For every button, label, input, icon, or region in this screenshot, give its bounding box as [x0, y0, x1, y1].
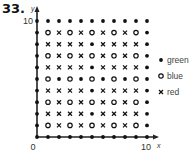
blue-circle-icon [90, 30, 94, 34]
blue-circle-icon [134, 30, 138, 34]
blue-circle-icon [68, 30, 72, 34]
blue-circle-icon [134, 100, 138, 104]
green-dot-icon [90, 135, 94, 139]
green-dot-icon [35, 77, 39, 81]
legend-label-green: green [167, 55, 189, 65]
green-dot-icon [134, 135, 138, 139]
red-cross-icon [79, 100, 83, 104]
green-dot-icon [35, 31, 39, 35]
red-cross-icon [79, 65, 83, 69]
green-dot-icon [90, 19, 94, 23]
green-dot-icon [145, 112, 149, 116]
red-cross-icon [57, 123, 61, 127]
green-dot-icon [57, 135, 61, 139]
blue-circle-icon [134, 77, 138, 81]
red-cross-icon [101, 31, 105, 35]
green-dot-icon [145, 77, 149, 81]
green-dot-icon [90, 42, 94, 46]
legend-cross-icon [159, 90, 163, 94]
blue-circle-icon [90, 100, 94, 104]
x-max-label: 10 [141, 142, 151, 152]
red-cross-icon [112, 112, 116, 116]
blue-circle-icon [134, 54, 138, 58]
blue-circle-icon [90, 123, 94, 127]
x-axis-label: x [156, 142, 161, 149]
y-axis-arrow-icon [35, 6, 40, 12]
green-dot-icon [145, 54, 149, 58]
x-axis-arrow-icon [153, 135, 159, 140]
green-dot-icon [79, 135, 83, 139]
blue-circle-icon [68, 123, 72, 127]
blue-circle-icon [68, 100, 72, 104]
red-cross-icon [79, 112, 83, 116]
red-cross-icon [57, 42, 61, 46]
data-points [35, 19, 149, 139]
blue-circle-icon [68, 77, 72, 81]
red-cross-icon [101, 65, 105, 69]
scatter-plot: 0 10 x 10 y green blue red [0, 0, 193, 154]
green-dot-icon [57, 77, 61, 81]
green-dot-icon [145, 124, 149, 128]
green-dot-icon [112, 135, 116, 139]
legend-circle-icon [159, 74, 163, 78]
red-cross-icon [123, 31, 127, 35]
red-cross-icon [101, 42, 105, 46]
red-cross-icon [123, 123, 127, 127]
red-cross-icon [123, 54, 127, 58]
blue-circle-icon [112, 77, 116, 81]
green-dot-icon [123, 77, 127, 81]
legend-label-red: red [167, 87, 180, 97]
legend-label-blue: blue [167, 71, 183, 81]
blue-circle-icon [46, 77, 50, 81]
red-cross-icon [134, 65, 138, 69]
red-cross-icon [68, 65, 72, 69]
legend-dot-icon [159, 58, 163, 62]
red-cross-icon [101, 123, 105, 127]
green-dot-icon [35, 100, 39, 104]
green-dot-icon [79, 77, 83, 81]
blue-circle-icon [134, 123, 138, 127]
red-cross-icon [123, 100, 127, 104]
blue-circle-icon [46, 54, 50, 58]
red-cross-icon [57, 112, 61, 116]
green-dot-icon [35, 89, 39, 93]
blue-circle-icon [46, 100, 50, 104]
red-cross-icon [57, 65, 61, 69]
red-cross-icon [123, 112, 127, 116]
green-dot-icon [145, 66, 149, 70]
red-cross-icon [79, 123, 83, 127]
red-cross-icon [68, 89, 72, 93]
red-cross-icon [101, 100, 105, 104]
green-dot-icon [79, 19, 83, 23]
blue-circle-icon [46, 30, 50, 34]
y-max-label: 10 [23, 16, 33, 26]
blue-circle-icon [112, 54, 116, 58]
red-cross-icon [79, 31, 83, 35]
red-cross-icon [46, 65, 50, 69]
red-cross-icon [101, 54, 105, 58]
red-cross-icon [112, 89, 116, 93]
red-cross-icon [68, 112, 72, 116]
red-cross-icon [46, 89, 50, 93]
green-dot-icon [134, 19, 138, 23]
green-dot-icon [35, 135, 39, 139]
blue-circle-icon [112, 30, 116, 34]
red-cross-icon [134, 112, 138, 116]
green-dot-icon [101, 19, 105, 23]
green-dot-icon [145, 42, 149, 46]
green-dot-icon [90, 66, 94, 70]
red-cross-icon [46, 42, 50, 46]
red-cross-icon [112, 65, 116, 69]
green-dot-icon [57, 19, 61, 23]
red-cross-icon [112, 42, 116, 46]
red-cross-icon [134, 89, 138, 93]
green-dot-icon [68, 135, 72, 139]
green-dot-icon [123, 19, 127, 23]
red-cross-icon [68, 42, 72, 46]
red-cross-icon [134, 42, 138, 46]
green-dot-icon [35, 112, 39, 116]
green-dot-icon [145, 31, 149, 35]
red-cross-icon [57, 89, 61, 93]
blue-circle-icon [112, 100, 116, 104]
green-dot-icon [145, 89, 149, 93]
